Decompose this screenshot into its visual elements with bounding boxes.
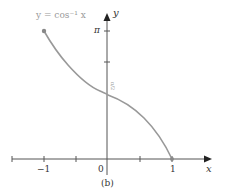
x-tick-0: 0: [98, 164, 104, 174]
x-axis-arrow-icon: [204, 156, 212, 163]
x-tick-neg1: −1: [37, 164, 50, 174]
y-axis-arrow-icon: [104, 13, 111, 21]
function-label: y = cos⁻¹ x: [36, 10, 86, 20]
caption: (b): [101, 178, 114, 188]
arccos-curve: [44, 31, 172, 159]
curve-end-point: [170, 157, 174, 161]
x-axis-label: x: [206, 163, 212, 174]
x-tick-1: 1: [170, 164, 176, 174]
arccos-chart: [0, 0, 225, 196]
y-tick-pi: π: [94, 25, 100, 35]
y-axis-label: y: [113, 7, 119, 18]
curve-start-point: [42, 29, 46, 33]
y-tick-pi-half: π/2: [110, 82, 116, 90]
